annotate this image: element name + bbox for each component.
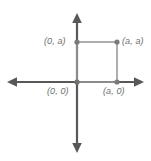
square-shape [77,42,117,82]
y-axis-up-arrowhead [72,13,82,23]
vertex-label-a-0: (a, 0) [103,87,125,96]
y-axis-down-arrowhead [72,143,82,153]
coordinate-plane-graphic [0,0,151,161]
vertex-dot-0-a [74,39,79,44]
x-axis-left-arrowhead [7,77,17,87]
vertex-dot-a-a [114,39,119,44]
vertex-label-a-a: (a, a) [122,37,144,46]
vertex-dot-a-0 [114,79,119,84]
vertex-label-0-0: (0, 0) [47,87,69,96]
vertex-label-0-a: (0, a) [44,37,66,46]
coordinate-plane-figure: (0, a) (a, a) (0, 0) (a, 0) [0,0,151,161]
x-axis-right-arrowhead [134,77,144,87]
vertex-dot-origin [74,79,79,84]
